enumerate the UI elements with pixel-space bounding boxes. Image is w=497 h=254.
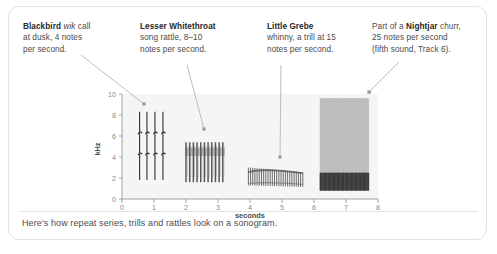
y-tick-6: 6 xyxy=(112,132,116,141)
y-tick-2: 2 xyxy=(112,174,116,183)
caption-divider xyxy=(19,211,478,212)
nightjar-dense-base xyxy=(320,173,368,191)
figure-caption: Here's how repeat series, trills and rat… xyxy=(22,217,472,230)
leader-dot-grebe xyxy=(278,155,281,158)
sonogram-plot: 0 2 4 6 8 10 kHz 0 1 2 3 4 5 6 7 xyxy=(9,7,487,240)
leader-dot-nightjar xyxy=(367,90,370,93)
leader-dot-whitethroat xyxy=(202,127,205,130)
leader-dot-blackbird xyxy=(142,102,145,105)
y-axis-ticks: 0 2 4 6 8 10 xyxy=(108,90,122,204)
sonogram-figure-card: Blackbird wik call at dusk, 4 notes per … xyxy=(8,6,487,240)
y-tick-4: 4 xyxy=(112,153,116,162)
whitethroat-band xyxy=(185,148,225,156)
leader-line-nightjar xyxy=(369,62,399,92)
y-axis-label: kHz xyxy=(93,142,102,155)
y-tick-8: 8 xyxy=(112,111,116,120)
y-tick-10: 10 xyxy=(108,90,116,99)
y-tick-0: 0 xyxy=(112,195,116,204)
